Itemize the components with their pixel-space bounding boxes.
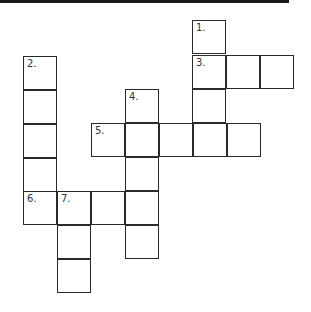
clue-number: 7. <box>61 194 71 204</box>
crossword-cell[interactable] <box>57 225 91 259</box>
crossword-cell[interactable] <box>91 191 125 225</box>
crossword-cell[interactable] <box>260 55 294 89</box>
crossword-cell-4[interactable]: 4. <box>125 89 159 123</box>
crossword-cell-6[interactable]: 6. <box>23 191 57 225</box>
clue-number: 3. <box>196 58 206 68</box>
crossword-cell-5[interactable]: 5. <box>91 123 125 157</box>
clue-number: 6. <box>27 194 37 204</box>
clue-number: 4. <box>129 92 139 102</box>
crossword-cell[interactable] <box>227 123 261 157</box>
clue-number: 5. <box>95 126 105 136</box>
crossword-cell[interactable] <box>125 157 159 191</box>
crossword-cell[interactable] <box>23 158 57 192</box>
crossword-cell-1[interactable]: 1. <box>192 20 226 54</box>
crossword-cell[interactable] <box>193 123 227 157</box>
crossword-cell[interactable] <box>125 225 159 259</box>
clue-number: 2. <box>27 59 37 69</box>
crossword-cell[interactable] <box>125 123 159 157</box>
crossword-cell[interactable] <box>23 90 57 124</box>
crossword-cell[interactable] <box>226 55 260 89</box>
crossword-grid: 1.3.2.4.5.6.7. <box>0 0 311 312</box>
crossword-cell-3[interactable]: 3. <box>192 55 226 89</box>
crossword-cell-2[interactable]: 2. <box>23 56 57 90</box>
crossword-cell[interactable] <box>125 191 159 225</box>
clue-number: 1. <box>196 23 206 33</box>
crossword-cell-7[interactable]: 7. <box>57 191 91 225</box>
crossword-cell[interactable] <box>159 123 193 157</box>
crossword-cell[interactable] <box>192 89 226 123</box>
crossword-cell[interactable] <box>57 259 91 293</box>
crossword-cell[interactable] <box>23 124 57 158</box>
